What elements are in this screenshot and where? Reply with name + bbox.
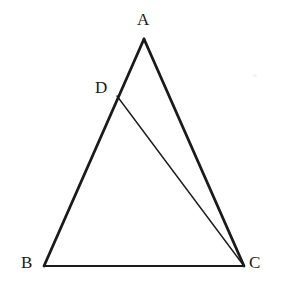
vertex-label-c: C bbox=[249, 254, 260, 271]
vertex-label-d: D bbox=[95, 79, 107, 96]
triangle-diagram bbox=[0, 0, 285, 301]
geometry-figure: A D B C bbox=[0, 0, 285, 301]
vertex-label-a: A bbox=[137, 11, 149, 28]
segment-ab bbox=[44, 39, 144, 266]
scan-artifact-speck bbox=[253, 74, 257, 77]
vertex-label-b: B bbox=[21, 254, 32, 271]
